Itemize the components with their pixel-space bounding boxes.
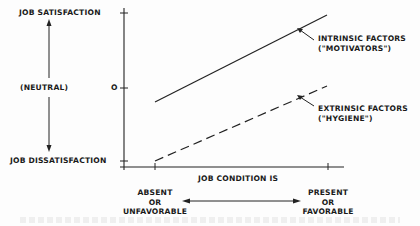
intrinsic-factors-line <box>155 15 327 102</box>
zero-tick-label: O <box>111 83 118 93</box>
neutral-label: (NEUTRAL) <box>20 83 68 93</box>
extrinsic-factors-label: EXTRINSIC FACTORS ("HYGIENE") <box>318 104 408 123</box>
intrinsic-factors-subname: ("MOTIVATORS") <box>318 44 406 54</box>
absent-text: ABSENT <box>122 188 188 198</box>
job-dissatisfaction-label: JOB DISSATISFACTION <box>10 156 107 166</box>
arrowhead-down-icon <box>47 145 52 152</box>
or-text-right: OR <box>298 198 358 208</box>
favorable-text: FAVORABLE <box>298 207 358 217</box>
extrinsic-factors-subname: ("HYGIENE") <box>318 114 408 124</box>
extrinsic-pointer <box>300 97 314 106</box>
present-favorable-label: PRESENT OR FAVORABLE <box>298 188 358 217</box>
intrinsic-factors-name: INTRINSIC FACTORS <box>318 34 406 44</box>
intrinsic-pointer-arrowhead-icon <box>297 28 303 33</box>
unfavorable-text: UNFAVORABLE <box>122 207 188 217</box>
x-axis-title: JOB CONDITION IS <box>198 174 278 184</box>
intrinsic-pointer <box>300 30 314 40</box>
arrowhead-up-icon <box>47 19 52 26</box>
extrinsic-factors-name: EXTRINSIC FACTORS <box>318 104 408 114</box>
page-bleed-through <box>20 217 400 223</box>
or-text-left: OR <box>122 198 188 208</box>
intrinsic-factors-label: INTRINSIC FACTORS ("MOTIVATORS") <box>318 34 406 53</box>
present-text: PRESENT <box>298 188 358 198</box>
job-satisfaction-label: JOB SATISFACTION <box>19 8 101 18</box>
absent-unfavorable-label: ABSENT OR UNFAVORABLE <box>122 188 188 217</box>
